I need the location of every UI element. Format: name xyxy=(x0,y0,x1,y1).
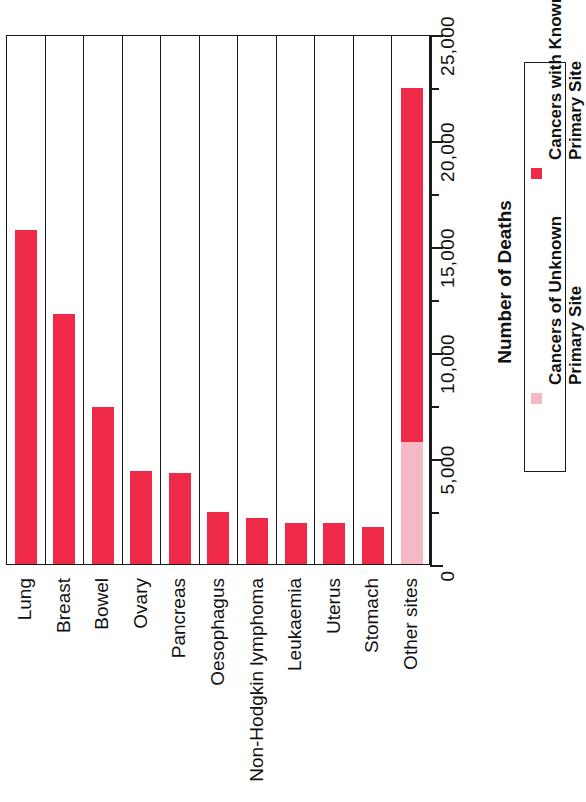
axis-tick-major xyxy=(430,565,443,567)
bar-segment-known-primary[interactable] xyxy=(246,518,268,564)
category-label: Leukaemia xyxy=(284,578,306,671)
axis-tick-minor xyxy=(430,194,439,196)
bar-leukaemia[interactable] xyxy=(285,523,307,564)
category-label: Non-Hodgkin lymphoma xyxy=(246,578,268,782)
category-label: Oesophagus xyxy=(207,578,229,686)
axis-tick-label: 20,000 xyxy=(437,122,459,182)
category-label: Other sites xyxy=(400,578,422,670)
value-axis-title: Number of Deaths xyxy=(494,200,516,364)
axis-tick-label: 0 xyxy=(437,571,459,582)
axis-tick-label: 15,000 xyxy=(437,228,459,288)
bar-bowel[interactable] xyxy=(92,407,114,564)
bar-lung[interactable] xyxy=(15,230,37,564)
plot-area xyxy=(6,35,430,565)
bar-non-hodgkin-lymphoma[interactable] xyxy=(246,518,268,564)
bar-other-sites[interactable] xyxy=(401,88,423,564)
square-swatch-pink xyxy=(531,393,542,404)
bar-segment-known-primary[interactable] xyxy=(169,473,191,564)
category-label: Pancreas xyxy=(168,578,190,658)
bar-segment-known-primary[interactable] xyxy=(401,88,423,442)
axis-tick-minor xyxy=(430,300,439,302)
axis-tick-minor xyxy=(430,406,439,408)
category-label: Lung xyxy=(14,578,36,620)
bar-segment-known-primary[interactable] xyxy=(130,471,152,564)
legend-label: Cancers with Known xyxy=(546,0,566,160)
category-label: Ovary xyxy=(130,578,152,629)
bar-segment-known-primary[interactable] xyxy=(362,527,384,564)
category-label: Breast xyxy=(53,578,75,633)
bar-column xyxy=(46,36,85,564)
bar-segment-known-primary[interactable] xyxy=(323,523,345,564)
bar-segment-known-primary[interactable] xyxy=(15,230,37,564)
bar-oesophagus[interactable] xyxy=(207,512,229,564)
axis-tick-minor xyxy=(430,88,439,90)
legend-label-line2: Primary Site xyxy=(566,61,586,160)
bar-column xyxy=(123,36,162,564)
bar-breast[interactable] xyxy=(53,314,75,564)
bar-segment-known-primary[interactable] xyxy=(92,407,114,564)
bar-stomach[interactable] xyxy=(362,527,384,564)
legend-label: Cancers of Unknown xyxy=(546,216,566,385)
bar-pancreas[interactable] xyxy=(169,473,191,564)
bar-column xyxy=(161,36,200,564)
square-swatch-red xyxy=(531,168,542,179)
axis-tick-label: 10,000 xyxy=(437,334,459,394)
chart-legend: Cancers of UnknownPrimary SiteCancers wi… xyxy=(524,62,566,472)
bar-segment-known-primary[interactable] xyxy=(53,314,75,564)
axis-tick-label: 25,000 xyxy=(437,16,459,76)
axis-tick-minor xyxy=(430,512,439,514)
bar-segment-unknown-primary[interactable] xyxy=(401,442,423,564)
bar-ovary[interactable] xyxy=(130,471,152,564)
bar-column xyxy=(200,36,239,564)
bar-column xyxy=(238,36,277,564)
category-label: Stomach xyxy=(361,578,383,653)
bar-column xyxy=(277,36,316,564)
bar-column xyxy=(354,36,393,564)
bar-uterus[interactable] xyxy=(323,523,345,564)
category-label: Uterus xyxy=(323,578,345,634)
bar-segment-known-primary[interactable] xyxy=(285,523,307,564)
legend-label-line2: Primary Site xyxy=(566,286,586,385)
axis-tick-label: 5,000 xyxy=(437,445,459,494)
bar-segment-known-primary[interactable] xyxy=(207,512,229,564)
bar-column xyxy=(84,36,123,564)
category-label: Bowel xyxy=(91,578,113,630)
bar-column xyxy=(315,36,354,564)
bar-column xyxy=(392,36,431,564)
bar-column xyxy=(7,36,46,564)
